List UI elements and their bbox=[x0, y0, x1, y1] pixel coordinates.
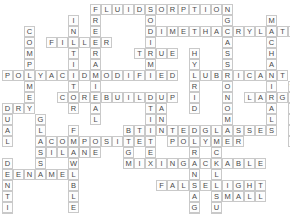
crossword-cell[interactable]: B bbox=[233, 158, 244, 169]
crossword-cell[interactable]: A bbox=[90, 103, 101, 114]
crossword-cell[interactable]: L bbox=[178, 180, 189, 191]
crossword-cell[interactable]: P bbox=[167, 136, 178, 147]
crossword-cell[interactable]: D bbox=[112, 70, 123, 81]
crossword-cell[interactable]: A bbox=[255, 92, 266, 103]
crossword-cell[interactable]: F bbox=[90, 4, 101, 15]
crossword-cell[interactable]: T bbox=[277, 70, 288, 81]
crossword-cell[interactable]: N bbox=[266, 70, 277, 81]
crossword-cell[interactable]: U bbox=[200, 70, 211, 81]
crossword-cell[interactable]: E bbox=[178, 26, 189, 37]
crossword-cell[interactable]: U bbox=[112, 92, 123, 103]
crossword-cell[interactable]: M bbox=[90, 70, 101, 81]
crossword-cell[interactable]: I bbox=[57, 37, 68, 48]
crossword-cell[interactable]: M bbox=[24, 81, 35, 92]
crossword-cell[interactable]: I bbox=[233, 70, 244, 81]
crossword-cell[interactable]: R bbox=[189, 81, 200, 92]
crossword-cell[interactable]: G bbox=[123, 147, 134, 158]
crossword-cell[interactable]: L bbox=[189, 136, 200, 147]
crossword-cell[interactable]: F bbox=[46, 37, 57, 48]
crossword-cell[interactable]: R bbox=[233, 136, 244, 147]
crossword-cell[interactable]: N bbox=[156, 114, 167, 125]
crossword-cell[interactable]: M bbox=[222, 191, 233, 202]
crossword-cell[interactable]: L bbox=[2, 136, 13, 147]
crossword-cell[interactable]: A bbox=[46, 70, 57, 81]
crossword-cell[interactable]: G bbox=[277, 92, 288, 103]
crossword-cell[interactable]: N bbox=[189, 169, 200, 180]
crossword-cell[interactable]: A bbox=[266, 59, 277, 70]
crossword-cell[interactable]: I bbox=[189, 92, 200, 103]
crossword-cell[interactable]: O bbox=[222, 81, 233, 92]
crossword-cell[interactable]: C bbox=[46, 136, 57, 147]
crossword-cell[interactable]: T bbox=[145, 136, 156, 147]
crossword-cell[interactable]: R bbox=[167, 4, 178, 15]
crossword-cell[interactable]: A bbox=[2, 125, 13, 136]
crossword-cell[interactable]: I bbox=[266, 81, 277, 92]
crossword-cell[interactable]: M bbox=[123, 158, 134, 169]
crossword-cell[interactable]: H bbox=[266, 48, 277, 59]
crossword-cell[interactable]: E bbox=[156, 70, 167, 81]
crossword-cell[interactable]: N bbox=[24, 169, 35, 180]
crossword-cell[interactable]: R bbox=[90, 15, 101, 26]
crossword-cell[interactable]: R bbox=[266, 92, 277, 103]
crossword-cell[interactable]: K bbox=[211, 158, 222, 169]
crossword-cell[interactable]: G bbox=[178, 158, 189, 169]
crossword-cell[interactable]: A bbox=[35, 169, 46, 180]
crossword-cell[interactable]: B bbox=[211, 70, 222, 81]
crossword-cell[interactable]: D bbox=[189, 103, 200, 114]
crossword-cell[interactable]: E bbox=[178, 125, 189, 136]
crossword-cell[interactable]: O bbox=[68, 92, 79, 103]
crossword-cell[interactable]: O bbox=[24, 37, 35, 48]
crossword-cell[interactable]: G bbox=[35, 114, 46, 125]
crossword-cell[interactable]: L bbox=[79, 37, 90, 48]
crossword-cell[interactable]: Y bbox=[288, 136, 290, 147]
crossword-cell[interactable]: O bbox=[13, 70, 24, 81]
crossword-cell[interactable]: H bbox=[244, 180, 255, 191]
crossword-cell[interactable]: E bbox=[200, 180, 211, 191]
crossword-cell[interactable]: G bbox=[233, 180, 244, 191]
crossword-cell[interactable]: C bbox=[211, 147, 222, 158]
crossword-cell[interactable]: S bbox=[101, 136, 112, 147]
crossword-cell[interactable]: S bbox=[266, 125, 277, 136]
crossword-cell[interactable]: I bbox=[90, 81, 101, 92]
crossword-cell[interactable]: E bbox=[222, 136, 233, 147]
crossword-cell[interactable]: O bbox=[101, 70, 112, 81]
crossword-cell[interactable]: E bbox=[24, 92, 35, 103]
crossword-cell[interactable]: E bbox=[145, 147, 156, 158]
crossword-cell[interactable]: E bbox=[288, 92, 290, 103]
crossword-cell[interactable]: Y bbox=[200, 136, 211, 147]
crossword-cell[interactable]: A bbox=[211, 26, 222, 37]
crossword-cell[interactable]: O bbox=[57, 136, 68, 147]
crossword-cell[interactable]: T bbox=[277, 26, 288, 37]
crossword-cell[interactable]: T bbox=[189, 26, 200, 37]
crossword-cell[interactable]: A bbox=[222, 125, 233, 136]
crossword-cell[interactable]: A bbox=[35, 136, 46, 147]
crossword-cell[interactable]: E bbox=[90, 147, 101, 158]
crossword-cell[interactable]: S bbox=[35, 158, 46, 169]
crossword-cell[interactable]: I bbox=[145, 114, 156, 125]
crossword-cell[interactable]: L bbox=[189, 70, 200, 81]
crossword-cell[interactable]: I bbox=[2, 202, 13, 213]
crossword-cell[interactable]: S bbox=[35, 147, 46, 158]
crossword-cell[interactable]: R bbox=[13, 103, 24, 114]
crossword-cell[interactable]: S bbox=[222, 59, 233, 70]
crossword-cell[interactable]: N bbox=[167, 158, 178, 169]
crossword-cell[interactable]: B bbox=[123, 125, 134, 136]
crossword-cell[interactable]: I bbox=[200, 4, 211, 15]
crossword-cell[interactable]: N bbox=[156, 125, 167, 136]
crossword-cell[interactable]: G bbox=[189, 202, 200, 213]
crossword-cell[interactable]: L bbox=[211, 125, 222, 136]
crossword-cell[interactable]: E bbox=[189, 213, 200, 214]
crossword-cell[interactable]: T bbox=[134, 48, 145, 59]
crossword-cell[interactable]: M bbox=[167, 26, 178, 37]
crossword-cell[interactable]: R bbox=[233, 26, 244, 37]
crossword-cell[interactable]: T bbox=[255, 180, 266, 191]
crossword-cell[interactable]: G bbox=[222, 15, 233, 26]
crossword-cell[interactable]: L bbox=[255, 191, 266, 202]
crossword-cell[interactable]: O bbox=[90, 136, 101, 147]
crossword-cell[interactable]: A bbox=[68, 147, 79, 158]
crossword-cell[interactable]: F bbox=[134, 70, 145, 81]
crossword-cell[interactable]: N bbox=[222, 92, 233, 103]
crossword-cell[interactable]: R bbox=[145, 48, 156, 59]
crossword-cell[interactable]: O bbox=[156, 4, 167, 15]
crossword-cell[interactable]: S bbox=[145, 4, 156, 15]
